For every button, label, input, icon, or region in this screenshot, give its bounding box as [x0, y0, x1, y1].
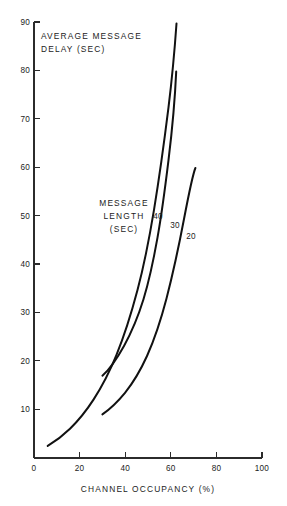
x-tick-label-80: 80	[212, 464, 222, 473]
y-tick-label-10: 10	[20, 405, 30, 414]
curve-label-40: 40	[153, 212, 163, 221]
y-tick-label-30: 30	[20, 308, 30, 317]
x-tick-label-0: 0	[32, 464, 37, 473]
x-tick-label-20: 20	[75, 464, 85, 473]
y-tick-label-40: 40	[20, 260, 30, 269]
message-delay-vs-occupancy-chart: 90 80 70 60 50 40 30 20 10 0 20 40	[0, 0, 287, 506]
legend-line-1: MESSAGE	[99, 198, 148, 208]
y-axis-ticks: 90 80 70 60 50 40 30 20 10	[20, 18, 40, 414]
x-axis-ticks: 0 20 40 60 80 100	[32, 452, 270, 473]
y-axis-caption-line-1: AVERAGE MESSAGE	[41, 31, 142, 41]
x-tick-label-60: 60	[166, 464, 176, 473]
curve-label-20: 20	[186, 232, 196, 241]
y-tick-label-60: 60	[20, 163, 30, 172]
x-tick-label-100: 100	[255, 464, 270, 473]
legend-line-2: LENGTH	[104, 211, 145, 221]
y-tick-label-80: 80	[20, 66, 30, 75]
x-tick-label-40: 40	[120, 464, 130, 473]
y-tick-label-20: 20	[20, 357, 30, 366]
x-axis-caption: CHANNEL OCCUPANCY (%)	[81, 484, 215, 494]
y-axis-caption-line-2: DELAY (SEC)	[41, 44, 105, 54]
y-tick-label-70: 70	[20, 115, 30, 124]
data-curves-group	[48, 24, 196, 446]
chart-figure: 90 80 70 60 50 40 30 20 10 0 20 40	[0, 0, 287, 506]
curve-label-30: 30	[170, 221, 180, 230]
y-axis-caption: AVERAGE MESSAGE DELAY (SEC)	[41, 31, 142, 54]
y-tick-label-50: 50	[20, 212, 30, 221]
y-tick-label-90: 90	[20, 18, 30, 27]
series-legend-caption: MESSAGE LENGTH (SEC)	[99, 198, 148, 234]
legend-line-3: (SEC)	[110, 224, 139, 234]
